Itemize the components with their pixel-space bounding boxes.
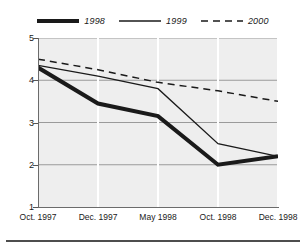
x-tick-label-1: Dec. 1997 <box>79 212 118 222</box>
y-tick-label-2: 2 <box>10 160 34 170</box>
chart-canvas <box>38 38 278 207</box>
thick-solid-line-swatch <box>37 18 79 25</box>
y-tick-label-3: 3 <box>10 118 34 128</box>
line-chart-figure: 1998 1999 2000 <box>0 0 306 251</box>
y-tick-label-1: 1 <box>10 202 34 212</box>
y-tick-label-5: 5 <box>10 33 34 43</box>
x-tick-label-4: Dec. 1998 <box>259 212 298 222</box>
y-tick-mark-1 <box>33 207 38 208</box>
x-axis-line <box>38 207 279 208</box>
chart-legend: 1998 1999 2000 <box>0 10 306 32</box>
legend-item-1998: 1998 <box>37 16 105 26</box>
thin-solid-line-swatch <box>119 18 161 25</box>
legend-label-1998: 1998 <box>84 16 105 26</box>
y-tick-mark-3 <box>33 123 38 124</box>
legend-label-2000: 2000 <box>248 16 269 26</box>
dashed-line-swatch <box>201 18 243 25</box>
x-tick-label-3: Oct. 1998 <box>200 212 237 222</box>
y-tick-mark-5 <box>33 38 38 39</box>
legend-label-1999: 1999 <box>166 16 187 26</box>
legend-item-2000: 2000 <box>201 16 269 26</box>
legend-item-1999: 1999 <box>119 16 187 26</box>
y-tick-mark-2 <box>33 165 38 166</box>
x-tick-label-0: Oct. 1997 <box>20 212 57 222</box>
y-tick-mark-4 <box>33 80 38 81</box>
y-tick-label-4: 4 <box>10 75 34 85</box>
plot-area <box>38 38 278 207</box>
y-axis-line <box>38 38 39 208</box>
footer-divider <box>6 240 300 242</box>
x-tick-label-2: May 1998 <box>139 212 176 222</box>
